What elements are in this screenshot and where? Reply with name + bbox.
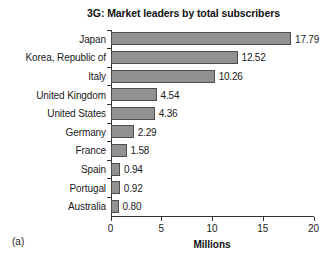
y-axis-tick xyxy=(107,30,111,31)
bar xyxy=(111,88,157,101)
x-axis-tick-label: 20 xyxy=(308,223,319,234)
category-label: France xyxy=(2,145,106,156)
bar-value-label: 2.29 xyxy=(138,126,157,137)
category-label: United Kingdom xyxy=(2,89,106,100)
y-axis-tick xyxy=(107,67,111,68)
y-axis-tick xyxy=(107,141,111,142)
bar-value-label: 4.36 xyxy=(159,108,178,119)
x-axis-tick-label: 5 xyxy=(158,223,164,234)
y-axis-tick xyxy=(107,197,111,198)
bar-value-label: 10.26 xyxy=(219,71,243,82)
bar-value-label: 4.54 xyxy=(161,89,180,100)
figure-panel: 3G: Market leaders by total subscribers … xyxy=(0,0,335,262)
category-label: Korea, Republic of xyxy=(2,52,106,63)
bar-value-label: 17.79 xyxy=(295,33,319,44)
y-axis-tick xyxy=(107,178,111,179)
x-axis-tick xyxy=(263,217,264,221)
y-axis-labels: JapanKorea, Republic ofItalyUnited Kingd… xyxy=(0,0,106,262)
category-label: United States xyxy=(2,108,106,119)
panel-label: (a) xyxy=(12,236,24,247)
bar xyxy=(111,200,119,213)
x-axis-tick-label: 15 xyxy=(257,223,268,234)
y-axis-tick xyxy=(107,104,111,105)
bar xyxy=(111,181,120,194)
y-axis-tick xyxy=(107,160,111,161)
bar xyxy=(111,125,134,138)
bar-value-label: 0.80 xyxy=(123,201,142,212)
x-axis-tick xyxy=(212,217,213,221)
bar-value-label: 12.52 xyxy=(242,52,266,63)
category-label: Portugal xyxy=(2,182,106,193)
bar xyxy=(111,51,238,64)
category-label: Germany xyxy=(2,126,106,137)
category-label: Japan xyxy=(2,33,106,44)
x-axis-tick xyxy=(111,217,112,221)
bar xyxy=(111,144,127,157)
bar-value-label: 0.94 xyxy=(124,164,143,175)
x-axis-tick-label: 0 xyxy=(108,223,114,234)
bar xyxy=(111,163,121,176)
x-axis-title: Millions xyxy=(193,239,230,250)
x-axis-tick xyxy=(314,217,315,221)
x-axis-tick xyxy=(161,217,162,221)
category-label: Italy xyxy=(2,71,106,82)
y-axis-tick xyxy=(107,123,111,124)
bar xyxy=(111,70,215,83)
bar-value-label: 1.58 xyxy=(131,145,150,156)
bar xyxy=(111,32,292,45)
bar-value-label: 0.92 xyxy=(124,182,143,193)
category-label: Australia xyxy=(2,201,106,212)
bar-chart-plot: JapanKorea, Republic ofItalyUnited Kingd… xyxy=(0,0,335,262)
x-axis-tick-label: 10 xyxy=(206,223,217,234)
y-axis-tick xyxy=(107,85,111,86)
y-axis-tick xyxy=(107,48,111,49)
bar xyxy=(111,107,155,120)
category-label: Spain xyxy=(2,164,106,175)
